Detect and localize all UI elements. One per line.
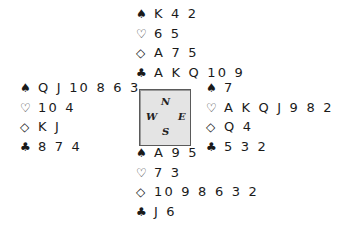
diamond-icon: ◇ (136, 44, 154, 64)
west-diamonds: K J (38, 117, 61, 137)
spade-icon: ♠ (20, 79, 38, 99)
spade-icon: ♠ (136, 144, 154, 164)
north-diamonds: A 7 5 (154, 43, 199, 63)
south-spades: A 9 5 (154, 143, 199, 163)
compass-north-label: N (161, 96, 170, 107)
east-hearts-row: ♡A K Q J 9 8 2 (206, 98, 334, 118)
south-spades-row: ♠A 9 5 (136, 143, 259, 163)
north-hearts-row: ♡6 5 (136, 24, 245, 44)
diamond-icon: ◇ (136, 183, 154, 203)
heart-icon: ♡ (20, 99, 38, 119)
north-hearts: 6 5 (154, 24, 181, 44)
east-spades: 7 (224, 78, 234, 98)
spade-icon: ♠ (136, 5, 154, 25)
east-diamonds-row: ◇Q 4 (206, 117, 334, 137)
club-icon: ♣ (136, 203, 154, 223)
west-hearts-row: ♡10 4 (20, 98, 140, 118)
spade-icon: ♠ (206, 79, 224, 99)
compass-box: N W E S (139, 89, 191, 146)
heart-icon: ♡ (136, 25, 154, 45)
west-diamonds-row: ◇K J (20, 117, 140, 137)
south-hearts: 7 3 (154, 163, 181, 183)
west-spades-row: ♠Q J 10 8 6 3 (20, 78, 140, 98)
diamond-icon: ◇ (206, 118, 224, 138)
diamond-icon: ◇ (20, 118, 38, 138)
east-hearts: A K Q J 9 8 2 (224, 98, 334, 118)
compass-south-label: S (162, 126, 169, 137)
west-spades: Q J 10 8 6 3 (38, 78, 140, 98)
south-clubs: J 6 (154, 202, 177, 222)
east-diamonds: Q 4 (224, 117, 253, 137)
heart-icon: ♡ (206, 99, 224, 119)
compass-west-label: W (146, 111, 157, 122)
west-clubs-row: ♣8 7 4 (20, 137, 140, 157)
south-hearts-row: ♡7 3 (136, 163, 259, 183)
west-hearts: 10 4 (38, 98, 76, 118)
south-hand: ♠A 9 5 ♡7 3 ◇10 9 8 6 3 2 ♣J 6 (136, 143, 259, 221)
compass-east-label: E (178, 111, 186, 122)
west-clubs: 8 7 4 (38, 137, 82, 157)
heart-icon: ♡ (136, 164, 154, 184)
south-diamonds: 10 9 8 6 3 2 (154, 182, 259, 202)
north-diamonds-row: ◇A 7 5 (136, 43, 245, 63)
south-diamonds-row: ◇10 9 8 6 3 2 (136, 182, 259, 202)
north-hand: ♠K 4 2 ♡6 5 ◇A 7 5 ♣A K Q 10 9 (136, 4, 245, 82)
east-spades-row: ♠7 (206, 78, 334, 98)
club-icon: ♣ (20, 138, 38, 158)
north-spades: K 4 2 (154, 4, 198, 24)
south-clubs-row: ♣J 6 (136, 202, 259, 222)
north-spades-row: ♠K 4 2 (136, 4, 245, 24)
west-hand: ♠Q J 10 8 6 3 ♡10 4 ◇K J ♣8 7 4 (20, 78, 140, 156)
